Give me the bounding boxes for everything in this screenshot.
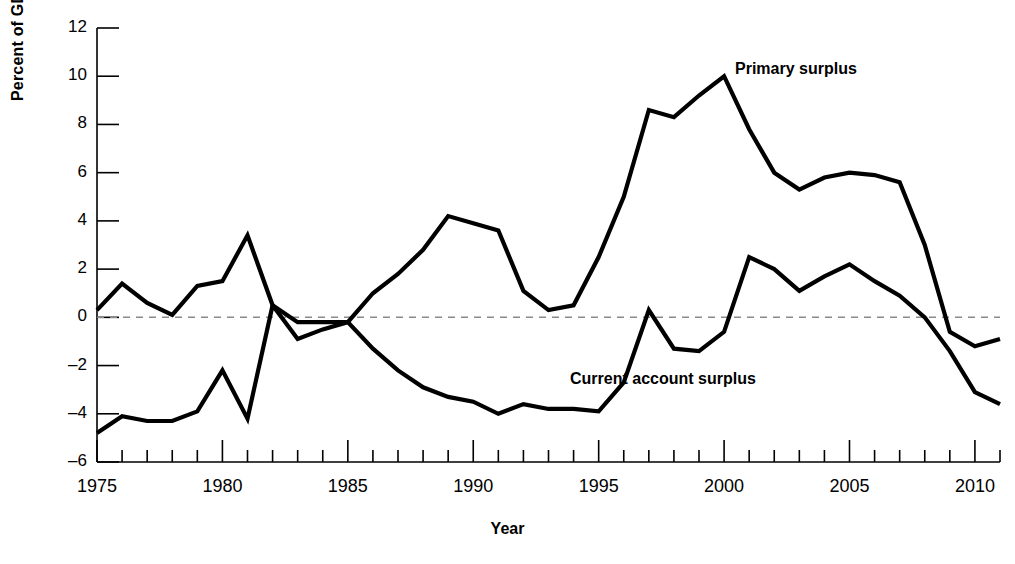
y-tick-label-4: 4 xyxy=(41,210,87,230)
y-tick-label--2: –2 xyxy=(41,355,87,375)
y-tick-label--4: –4 xyxy=(41,403,87,423)
series-line-primary-surplus xyxy=(97,76,1000,346)
x-tick-label-1980: 1980 xyxy=(182,476,262,497)
y-tick-label-0: 0 xyxy=(41,306,87,326)
x-tick-label-1985: 1985 xyxy=(308,476,388,497)
x-axis-title: Year xyxy=(0,520,1015,538)
axes-group xyxy=(97,28,1000,462)
x-tick-label-2005: 2005 xyxy=(810,476,890,497)
data-lines-group xyxy=(97,76,1000,433)
chart-figure: Percent of GDP Year Primary surplus Curr… xyxy=(0,0,1015,564)
y-axis-title: Percent of GDP xyxy=(0,0,36,166)
x-tick-label-2010: 2010 xyxy=(935,476,1015,497)
series-line-current-account-surplus xyxy=(97,257,1000,433)
y-tick-label-12: 12 xyxy=(41,17,87,37)
x-tick-label-1975: 1975 xyxy=(57,476,137,497)
x-tick-label-1995: 1995 xyxy=(559,476,639,497)
y-tick-label-10: 10 xyxy=(41,65,87,85)
y-tick-label-2: 2 xyxy=(41,258,87,278)
y-tick-label--6: –6 xyxy=(41,451,87,471)
x-tick-label-2000: 2000 xyxy=(684,476,764,497)
x-tick-label-1990: 1990 xyxy=(433,476,513,497)
series-label-primary-surplus: Primary surplus xyxy=(735,60,857,78)
series-label-current-account-surplus: Current account surplus xyxy=(570,370,756,388)
y-tick-label-6: 6 xyxy=(41,162,87,182)
y-tick-label-8: 8 xyxy=(41,113,87,133)
